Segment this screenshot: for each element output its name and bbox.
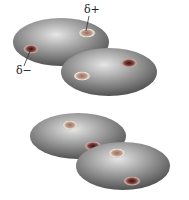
dipole-diagram: δ+ δ− [0,0,189,200]
delta-plus-label: δ+ [84,3,100,16]
molecule-4 [76,142,170,190]
positive-pole [78,28,96,38]
positive-pole [73,71,91,81]
molecule-2 [61,48,157,96]
positive-pole [62,120,78,130]
negative-pole [123,176,141,186]
negative-pole [23,44,39,54]
negative-pole [120,58,138,68]
delta-minus-label: δ− [16,64,32,77]
positive-pole [108,148,126,158]
